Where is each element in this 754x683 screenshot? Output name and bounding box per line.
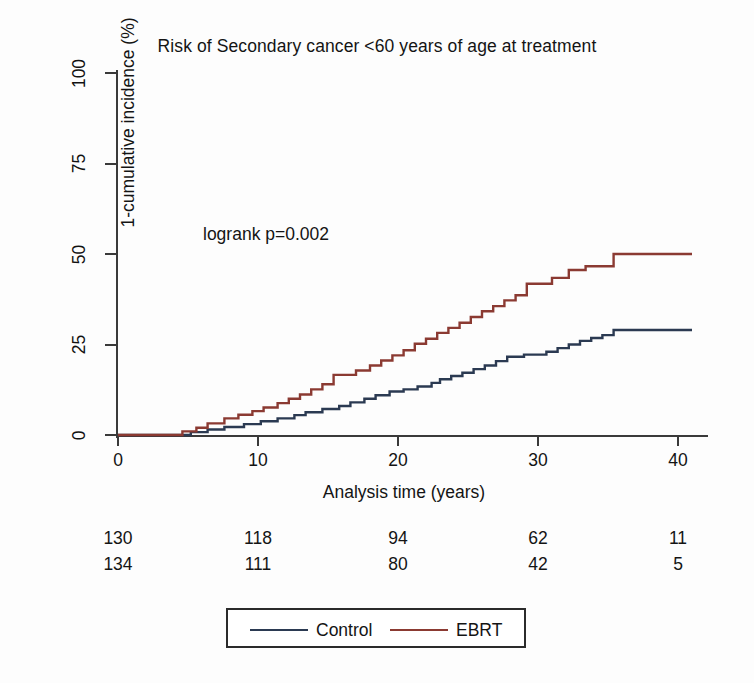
x-tick-label-20: 20	[368, 450, 428, 471]
risk-count-ebrt-t10: 111	[223, 554, 293, 575]
x-tick-label-30: 30	[508, 450, 568, 471]
risk-count-control-t40: 11	[643, 528, 713, 549]
y-tick-label-75: 75	[58, 152, 102, 176]
x-tick-40	[677, 435, 679, 446]
y-tick-25	[105, 344, 116, 346]
legend-label-control: Control	[316, 620, 372, 641]
y-axis-line	[116, 70, 118, 438]
x-axis-title: Analysis time (years)	[118, 482, 690, 503]
y-tick-50	[105, 253, 116, 255]
chart-figure: Risk of Secondary cancer <60 years of ag…	[0, 0, 754, 683]
risk-count-ebrt-t0: 134	[83, 554, 153, 575]
y-tick-75	[105, 163, 116, 165]
risk-count-ebrt-t30: 42	[503, 554, 573, 575]
legend: ControlEBRT	[226, 608, 526, 648]
risk-count-ebrt-t40: 5	[643, 554, 713, 575]
risk-count-control-t30: 62	[503, 528, 573, 549]
legend-entry-control: Control	[250, 610, 372, 650]
legend-swatch-control	[250, 629, 308, 631]
logrank-annotation: logrank p=0.002	[203, 224, 329, 245]
y-tick-label-0: 0	[58, 423, 102, 447]
x-tick-label-40: 40	[648, 450, 708, 471]
curve-control	[118, 330, 692, 435]
legend-swatch-ebrt	[390, 629, 448, 631]
risk-count-control-t0: 130	[83, 528, 153, 549]
legend-entry-ebrt: EBRT	[390, 610, 502, 650]
x-tick-0	[117, 435, 119, 446]
curve-ebrt	[118, 254, 692, 435]
x-tick-label-0: 0	[88, 450, 148, 471]
risk-count-control-t20: 94	[363, 528, 433, 549]
y-tick-label-25: 25	[58, 333, 102, 357]
y-tick-0	[105, 434, 116, 436]
y-axis-title: 1-cumulative incidence (%)	[118, 0, 139, 268]
survival-curves	[0, 0, 754, 683]
x-tick-30	[537, 435, 539, 446]
x-tick-label-10: 10	[228, 450, 288, 471]
x-axis-line	[116, 435, 708, 437]
x-tick-10	[257, 435, 259, 446]
y-tick-label-100: 100	[58, 61, 102, 85]
legend-label-ebrt: EBRT	[456, 620, 502, 641]
y-tick-label-50: 50	[58, 242, 102, 266]
numbers-at-risk-table: 13011894621113411180425	[0, 528, 754, 580]
risk-count-control-t10: 118	[223, 528, 293, 549]
risk-count-ebrt-t20: 80	[363, 554, 433, 575]
chart-title: Risk of Secondary cancer <60 years of ag…	[0, 36, 754, 57]
y-tick-100	[105, 72, 116, 74]
x-tick-20	[397, 435, 399, 446]
